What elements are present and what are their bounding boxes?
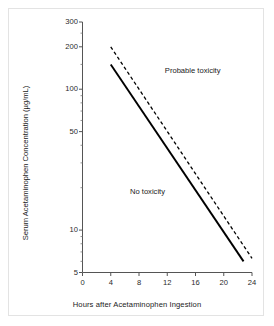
probable-toxicity-label: Probable toxicity bbox=[165, 66, 221, 75]
x-tick-label-16: 16 bbox=[186, 278, 206, 287]
series-line-1 bbox=[111, 64, 244, 261]
y-tick-label-200: 200 bbox=[52, 42, 78, 51]
x-axis-title: Hours after Acetaminophen Ingestion bbox=[0, 300, 274, 309]
y-tick-label-100: 100 bbox=[52, 84, 78, 93]
acetaminophen-nomogram-figure: 30020010050105 04812162024 Probable toxi… bbox=[0, 0, 274, 326]
x-tick-label-24: 24 bbox=[242, 278, 262, 287]
y-tick-label-300: 300 bbox=[52, 17, 78, 26]
x-tick-label-4: 4 bbox=[101, 278, 121, 287]
x-tick-label-20: 20 bbox=[214, 278, 234, 287]
y-tick-label-50: 50 bbox=[52, 127, 78, 136]
x-tick-label-8: 8 bbox=[129, 278, 149, 287]
x-tick-label-0: 0 bbox=[73, 278, 93, 287]
x-axis-tick-marks bbox=[83, 273, 253, 277]
series-line-0 bbox=[111, 47, 252, 259]
y-tick-label-10: 10 bbox=[52, 225, 78, 234]
y-tick-label-5: 5 bbox=[52, 268, 78, 277]
y-axis-tick-marks bbox=[79, 22, 83, 273]
nomogram-lines bbox=[111, 47, 252, 262]
no-toxicity-label: No toxicity bbox=[130, 187, 165, 196]
x-tick-label-12: 12 bbox=[157, 278, 177, 287]
